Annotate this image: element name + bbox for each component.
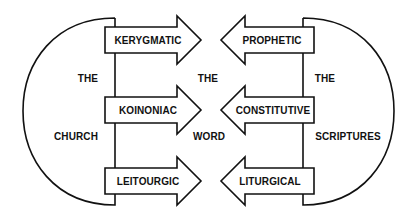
label-the-word-2: WORD [193, 131, 225, 142]
label-the-scriptures-2: SCRIPTURES [315, 131, 380, 142]
label-liturgical: LITURGICAL [239, 176, 301, 187]
label-the-church-2: CHURCH [54, 131, 98, 142]
label-kerygmatic: KERYGMATIC [114, 35, 181, 46]
church-semicircle [23, 18, 115, 205]
label-constitutive: CONSTITUTIVE [236, 105, 311, 116]
label-the-word-1: THE [198, 73, 218, 84]
label-prophetic: PROPHETIC [242, 35, 301, 46]
label-koinoniac: KOINONIAC [119, 105, 177, 116]
diagram-canvas [0, 0, 413, 222]
label-the-scriptures-1: THE [315, 73, 335, 84]
label-the-church-1: THE [78, 73, 98, 84]
scriptures-semicircle [303, 18, 394, 205]
label-leitourgic: LEITOURGIC [117, 176, 179, 187]
